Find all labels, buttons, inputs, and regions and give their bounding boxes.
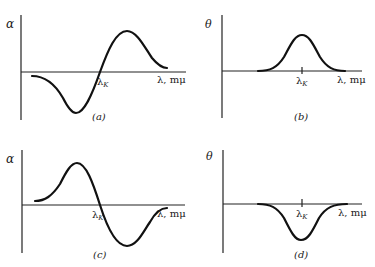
y-axis-label: α: [6, 152, 14, 166]
cotton-effect-diagram: α λK λ, mμ (a) θ λK λ, mμ (b) α λK λ, mμ…: [0, 0, 375, 267]
panel-caption: (c): [93, 249, 107, 260]
panel-caption: (d): [294, 249, 308, 260]
x-axis-label: λ, mμ: [338, 207, 367, 218]
x-axis-label: λ, mμ: [157, 74, 186, 85]
ellipticity-curve: [258, 35, 345, 71]
panel-d: θ λK λ, mμ (d): [206, 150, 367, 260]
y-axis-label: θ: [205, 18, 212, 31]
lambda-k-label: λK: [296, 208, 308, 221]
x-axis-label: λ, mμ: [337, 74, 366, 85]
panel-a: α λK λ, mμ (a): [6, 15, 186, 122]
panel-caption: (a): [92, 111, 106, 122]
x-axis-label: λ, mμ: [157, 208, 186, 219]
y-axis-label: θ: [206, 150, 213, 163]
lambda-k-label: λK: [97, 76, 109, 89]
panel-caption: (b): [294, 111, 308, 122]
ellipticity-curve: [258, 204, 347, 240]
panel-c: α λK λ, mμ (c): [6, 150, 186, 260]
panel-b: θ λK λ, mμ (b): [205, 15, 366, 122]
y-axis-label: α: [6, 17, 14, 31]
lambda-k-label: λK: [296, 75, 308, 88]
